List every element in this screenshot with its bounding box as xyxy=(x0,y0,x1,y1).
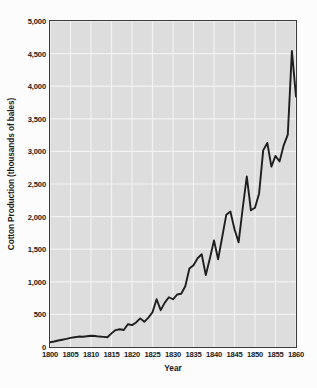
y-tick-label: 2,500 xyxy=(14,180,46,189)
y-tick-label: 3,000 xyxy=(14,147,46,156)
y-tick-label: 5,000 xyxy=(14,17,46,26)
y-tick-label: 500 xyxy=(14,310,46,319)
y-tick-label: 1,000 xyxy=(14,277,46,286)
x-tick-label: 1860 xyxy=(279,350,313,359)
x-axis-tick-labels: 1800180518101815182018251830183518401845… xyxy=(0,350,317,364)
y-tick-label: 4,000 xyxy=(14,82,46,91)
y-tick-label: 1,500 xyxy=(14,245,46,254)
y-axis-tick-labels: 05001,0001,5002,0002,5003,0003,5004,0004… xyxy=(14,0,46,388)
y-tick-label: 2,000 xyxy=(14,212,46,221)
cotton-production-chart: Cotton Production (thousands of bales) 0… xyxy=(0,0,317,388)
x-axis-title: Year xyxy=(49,363,297,373)
plot-area xyxy=(49,20,297,348)
y-tick-label: 4,500 xyxy=(14,49,46,58)
y-tick-label: 3,500 xyxy=(14,114,46,123)
plot-svg xyxy=(50,21,296,347)
